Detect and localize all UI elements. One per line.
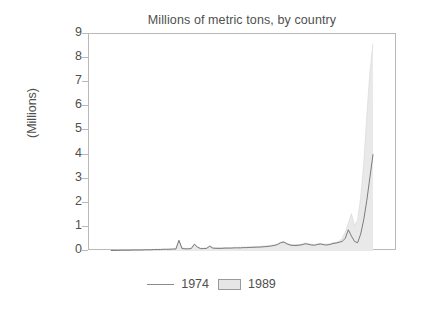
y-axis-tick-mark	[82, 178, 88, 179]
chart-title: Millions of metric tons, by country	[88, 13, 396, 27]
y-axis-tick-label: 2	[60, 195, 82, 207]
y-axis-tick-label: 4	[60, 147, 82, 159]
y-axis-tick-label: 9	[60, 26, 82, 38]
series-line-1974	[111, 155, 373, 251]
y-axis-tick-mark	[82, 129, 88, 130]
chart-legend: 1974 1989	[0, 278, 423, 291]
y-axis-tick-mark	[82, 33, 88, 34]
plot-svg	[89, 34, 397, 251]
y-axis-tick-label: 3	[60, 171, 82, 183]
y-axis-tick-labels: 0123456789	[58, 0, 82, 310]
y-axis-tick-label: 7	[60, 74, 82, 86]
chart-figure: Millions of metric tons, by country (Mil…	[0, 0, 423, 310]
y-axis-title-label: (Millions)	[25, 88, 39, 138]
legend-item-1974[interactable]: 1974	[147, 278, 209, 291]
legend-label-1974: 1974	[181, 278, 209, 291]
y-axis-tick-label: 6	[60, 98, 82, 110]
legend-item-1989[interactable]: 1989	[218, 278, 276, 291]
y-axis-tick-label: 8	[60, 50, 82, 62]
y-axis-tick-mark	[82, 105, 88, 106]
series-area-1989-edge	[111, 44, 373, 251]
y-axis-tick-label: 0	[60, 243, 82, 255]
plot-area	[88, 33, 396, 250]
y-axis-tick-label: 5	[60, 122, 82, 134]
y-axis-tick-mark	[82, 154, 88, 155]
legend-label-1989: 1989	[248, 278, 276, 291]
y-axis-tick-mark	[82, 202, 88, 203]
y-axis-tick-mark	[82, 226, 88, 227]
legend-box-swatch-icon	[218, 279, 241, 290]
y-axis-tick-label: 1	[60, 219, 82, 231]
y-axis-title: (Millions)	[22, 58, 40, 168]
y-axis-tick-mark	[82, 81, 88, 82]
y-axis-tick-mark	[82, 57, 88, 58]
series-area-1989	[111, 44, 373, 251]
y-axis-tick-mark	[82, 250, 88, 251]
legend-line-swatch-icon	[147, 284, 174, 285]
